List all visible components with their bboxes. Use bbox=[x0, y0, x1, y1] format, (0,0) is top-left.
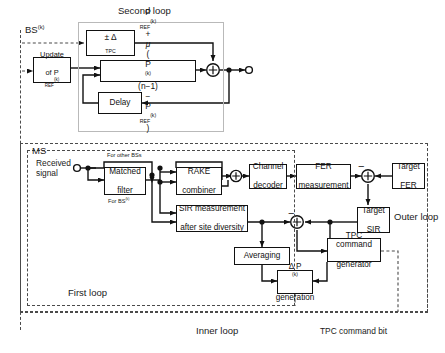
channel-decoder-line2: decoder bbox=[253, 181, 284, 191]
delta-p-line2: generation bbox=[276, 293, 315, 303]
sir-measurement-block: SIR measurement after site diversity bbox=[176, 205, 248, 232]
tpc-generator-line1: TPC command bbox=[330, 231, 378, 250]
received-signal-label-line2: signal bbox=[36, 169, 58, 179]
delta-p-line1: Δ P(k) bbox=[276, 262, 315, 283]
delta-tpc-block: ± ΔTPC bbox=[86, 30, 135, 56]
delta-p-generation-block: Δ P(k) generation bbox=[277, 270, 313, 294]
rake-combiner-line1: RAKE bbox=[182, 167, 216, 177]
target-sir-block: Target SIR bbox=[357, 207, 390, 233]
tpc-command-bit-label: TPC command bit bbox=[320, 327, 387, 337]
channel-decoder-block: Channel decoder bbox=[249, 164, 287, 189]
for-bs-k-label: For BS(k) bbox=[108, 197, 129, 204]
delay-block: Delay bbox=[98, 92, 142, 114]
outer-loop-label: Outer loop bbox=[394, 212, 438, 223]
ms-label: MS bbox=[32, 146, 46, 157]
delta-tpc-text: ± Δ bbox=[104, 33, 116, 43]
matched-filter-block: Matched filter bbox=[104, 167, 146, 195]
tpc-generator-line2: generator bbox=[330, 260, 378, 270]
bs-k-label: BS(k) bbox=[25, 24, 45, 36]
fer-measurement-block: FER measurement bbox=[296, 164, 351, 189]
delta-tpc-subscript: TPC bbox=[105, 47, 115, 53]
target-fer-line1: Target bbox=[397, 162, 420, 172]
averaging-label: Averaging bbox=[244, 251, 281, 261]
sir-measurement-line2: after site diversity bbox=[179, 223, 245, 233]
first-loop-label: First loop bbox=[68, 288, 107, 299]
update-pref-block: Update of PREF(k) bbox=[33, 57, 71, 83]
matched-filter-line1: Matched bbox=[109, 167, 140, 177]
target-fer-line2: FER bbox=[397, 181, 420, 191]
pref-equation-block: PREF(k) + μ(P(k)(n−1)−PREF(k)) bbox=[100, 60, 196, 82]
fer-measurement-line1: FER bbox=[298, 162, 348, 172]
matched-filter-line2: filter bbox=[109, 186, 140, 196]
rake-combiner-line2: combiner bbox=[182, 186, 216, 196]
target-sir-line1: Target bbox=[362, 206, 385, 216]
target-fer-block: Target FER bbox=[392, 163, 425, 189]
minus-sign-sir: − bbox=[288, 207, 294, 220]
inner-loop-label: Inner loop bbox=[196, 326, 238, 337]
pref-equation-text: PREF(k) + μ(P(k)(n−1)−PREF(k)) bbox=[138, 8, 158, 134]
minus-sign-fer: − bbox=[358, 160, 364, 173]
fer-measurement-line2: measurement bbox=[298, 181, 348, 191]
delay-label: Delay bbox=[110, 98, 131, 108]
update-pref-line1: Update bbox=[40, 51, 64, 60]
rake-combiner-block: RAKE combiner bbox=[176, 167, 222, 195]
update-pref-line2: of PREF(k) bbox=[40, 69, 64, 89]
channel-decoder-line1: Channel bbox=[253, 162, 284, 172]
tpc-command-generator-block: TPC command generator bbox=[327, 238, 381, 262]
block-diagram-figure: ± ΔTPC Update of PREF(k) PREF(k) + μ(P(k… bbox=[0, 0, 445, 353]
sir-measurement-line1: SIR measurement bbox=[179, 204, 245, 214]
for-other-bss-label: For other BSs bbox=[107, 152, 142, 158]
second-loop-label: Second loop bbox=[118, 6, 171, 17]
